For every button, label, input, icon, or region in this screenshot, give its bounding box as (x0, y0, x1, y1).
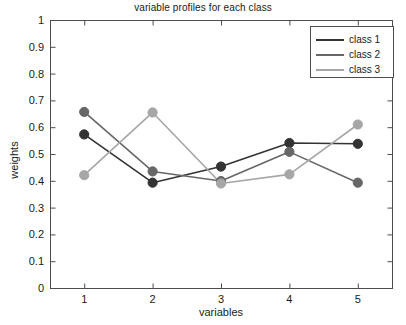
data-point-3-2 (148, 108, 157, 117)
data-point-3-1 (80, 171, 89, 180)
data-point-2-5 (353, 178, 362, 187)
x-axis-tick-label: 4 (286, 293, 292, 305)
legend: class 1class 2class 3 (310, 26, 394, 78)
y-axis-tick-label: 0.7 (0, 94, 44, 106)
x-axis-label: variables (50, 306, 392, 318)
data-point-1-5 (353, 139, 362, 148)
legend-entry-3[interactable]: class 3 (311, 61, 395, 78)
data-point-1-4 (285, 138, 294, 147)
data-point-1-2 (148, 178, 157, 187)
data-point-1-1 (80, 130, 89, 139)
y-axis-tick-label: 0.8 (0, 68, 44, 80)
legend-label: class 1 (349, 34, 380, 45)
data-point-2-2 (148, 167, 157, 176)
y-axis-tick-label: 0 (0, 282, 44, 294)
data-point-2-1 (80, 107, 89, 116)
legend-label: class 2 (349, 49, 380, 60)
legend-line-swatch (316, 69, 344, 71)
y-axis-tick-label: 1 (0, 14, 44, 26)
y-axis-tick-label: 0.9 (0, 41, 44, 53)
data-point-3-4 (285, 170, 294, 179)
chart-figure: variable profiles for each class weights… (0, 0, 406, 325)
data-point-2-4 (285, 147, 294, 156)
legend-line-swatch (316, 54, 344, 56)
data-point-1-3 (216, 162, 225, 171)
y-axis-tick-label: 0.3 (0, 202, 44, 214)
data-point-3-5 (353, 120, 362, 129)
y-axis-tick-label: 0.6 (0, 121, 44, 133)
x-axis-tick-label: 2 (150, 293, 156, 305)
legend-label: class 3 (349, 64, 380, 75)
x-axis-tick-label: 5 (355, 293, 361, 305)
x-axis-tick-label: 1 (81, 293, 87, 305)
y-axis-tick-label: 0.1 (0, 255, 44, 267)
y-axis-tick-label: 0.2 (0, 228, 44, 240)
y-axis-tick-label: 0.4 (0, 175, 44, 187)
data-point-3-3 (216, 179, 225, 188)
y-axis-tick-label: 0.5 (0, 148, 44, 160)
legend-line-swatch (316, 39, 344, 41)
x-axis-tick-label: 3 (218, 293, 224, 305)
